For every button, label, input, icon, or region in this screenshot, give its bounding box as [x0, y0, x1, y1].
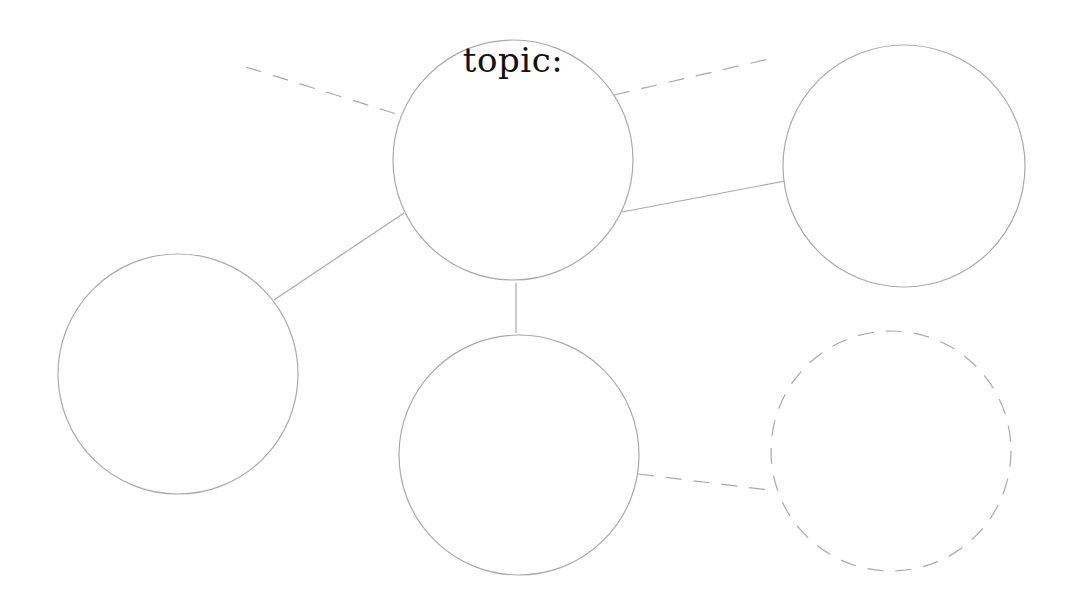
edge-center-to-right — [622, 181, 785, 212]
edge-bottom-to-bottom-right — [638, 474, 777, 491]
edge-center-to-left — [274, 213, 404, 300]
edge-center-to-offscreen-top-left — [246, 67, 403, 116]
node-bottom-right-circle[interactable] — [771, 331, 1011, 571]
node-bottom-circle[interactable] — [399, 335, 639, 575]
bubble-map-diagram — [0, 0, 1077, 604]
topic-label[interactable]: topic: — [394, 40, 632, 80]
node-left-circle[interactable] — [58, 254, 298, 494]
edge-center-to-offscreen-top-right — [614, 57, 777, 95]
node-right-circle[interactable] — [783, 45, 1025, 287]
